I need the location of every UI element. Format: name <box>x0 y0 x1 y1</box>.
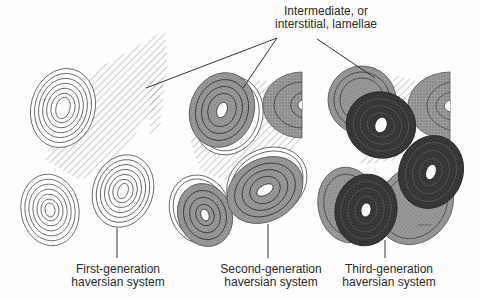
panel-first-generation <box>15 30 168 258</box>
haversian-diagram: signature Intermediate, or interstitial,… <box>0 0 479 298</box>
interstitial-lamellae-label: Intermediate, or interstitial, lamellae <box>262 5 390 31</box>
artist-signature: signature <box>417 223 431 227</box>
diagram-canvas: signature <box>0 0 479 298</box>
second-generation-label: Second-generation haversian system <box>216 263 326 289</box>
label-line-2: haversian system <box>216 276 326 289</box>
callout-line-2: interstitial, lamellae <box>262 18 390 31</box>
osteon-lower-left <box>15 170 85 251</box>
interstitial-hatch-left <box>150 80 165 135</box>
label-line-2: haversian system <box>334 276 444 289</box>
panel-third-generation: signature <box>312 56 474 260</box>
third-generation-label: Third-generation haversian system <box>334 263 444 289</box>
leader-to-second-osteon <box>243 38 277 88</box>
first-generation-label: First-generation haversian system <box>68 263 168 289</box>
panel-second-generation <box>150 63 321 258</box>
label-line-2: haversian system <box>68 276 168 289</box>
